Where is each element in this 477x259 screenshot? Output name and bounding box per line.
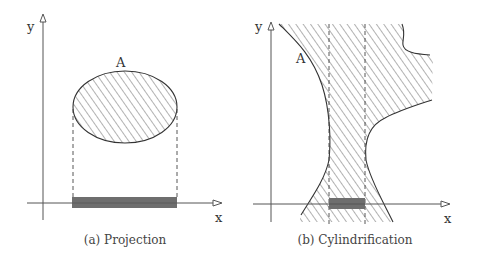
caption-a: (a) Projection [84, 233, 167, 247]
set-a-ellipse [73, 71, 177, 143]
x-axis-arrow-icon [441, 201, 450, 207]
set-a-label: A [115, 55, 126, 70]
panel-a: y x A (a) Projection [26, 14, 223, 247]
set-a-right-upper-boundary [402, 24, 430, 55]
set-a-label: A [295, 51, 306, 66]
x-axis-label: x [215, 210, 223, 225]
figure: y x A (a) Projection y A [0, 0, 477, 259]
y-axis-arrow-icon [40, 14, 46, 22]
caption-b: (b) Cylindrification [298, 233, 413, 247]
x-axis-arrow-icon [213, 200, 222, 206]
x-axis-label: x [444, 211, 452, 226]
y-axis-arrow-icon [268, 22, 274, 30]
y-axis-label: y [26, 19, 35, 34]
projection-bar [72, 197, 177, 208]
panel-b: y A x (b) Cylindrification [253, 19, 452, 247]
y-axis-label: y [254, 19, 263, 34]
